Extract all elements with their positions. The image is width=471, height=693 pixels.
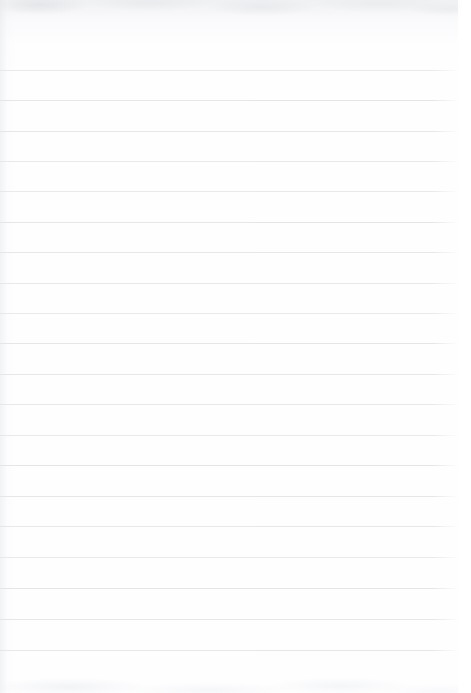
writing-area[interactable] — [0, 0, 471, 693]
lined-paper-page — [0, 0, 471, 693]
